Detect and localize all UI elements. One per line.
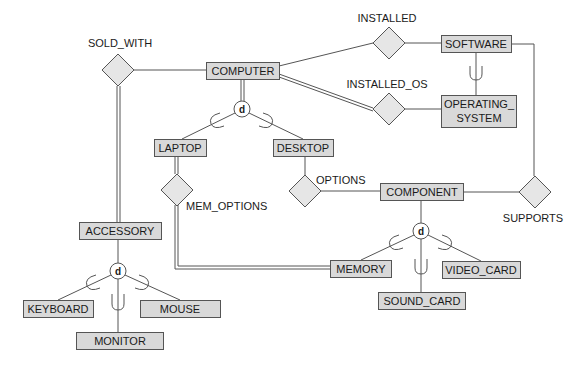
specialization-accessory: d	[110, 263, 126, 279]
entity-laptop[interactable]: LAPTOP	[155, 140, 207, 157]
relationship-label: SOLD_WITH	[88, 37, 152, 49]
entity-label: DESKTOP	[277, 142, 329, 154]
entity-software[interactable]: SOFTWARE	[442, 36, 512, 53]
relationship-label: OPTIONS	[316, 174, 366, 186]
relationship-sold-with[interactable]: SOLD_WITH	[88, 37, 152, 86]
entity-label: LAPTOP	[158, 142, 201, 154]
line-d-desktop	[249, 113, 303, 139]
entity-memory[interactable]: MEMORY	[331, 261, 392, 278]
entity-accessory[interactable]: ACCESSORY	[80, 223, 162, 240]
subset-symbol-laptop	[210, 113, 224, 128]
entity-sound-card[interactable]: SOUND_CARD	[379, 293, 466, 310]
entity-desktop[interactable]: DESKTOP	[274, 140, 334, 157]
line-d-memory	[361, 235, 414, 260]
entity-label-line1: OPERATING_	[444, 98, 515, 110]
specialization-component: d	[413, 223, 429, 239]
diamond-shape	[373, 27, 405, 59]
relationship-label: MEM_OPTIONS	[186, 200, 267, 212]
diamond-shape	[373, 93, 405, 125]
line-memoptions-memory-b	[178, 205, 330, 266]
relationship-installed-os[interactable]: INSTALLED_OS	[346, 78, 427, 125]
entity-label: COMPONENT	[386, 186, 458, 198]
line-memoptions-memory-a	[175, 205, 330, 269]
entity-label: MONITOR	[94, 335, 146, 347]
subset-symbol-desktop	[259, 113, 273, 128]
entity-label: SOUND_CARD	[383, 295, 460, 307]
disjoint-label: d	[239, 104, 245, 115]
relationship-label: SUPPORTS	[503, 212, 563, 224]
entity-label: VIDEO_CARD	[445, 264, 517, 276]
line-d-laptop	[182, 113, 235, 139]
entity-computer[interactable]: COMPUTER	[207, 63, 280, 80]
relationship-label: INSTALLED	[357, 12, 416, 24]
diamond-shape	[102, 54, 134, 86]
entity-label: KEYBOARD	[27, 303, 88, 315]
disjoint-label: d	[115, 266, 121, 277]
entity-monitor[interactable]: MONITOR	[77, 333, 164, 350]
entity-label: COMPUTER	[212, 65, 275, 77]
entity-mouse[interactable]: MOUSE	[141, 301, 221, 318]
entity-label: ACCESSORY	[86, 225, 156, 237]
relationship-mem-options[interactable]: MEM_OPTIONS	[161, 174, 267, 212]
diamond-shape	[519, 176, 551, 208]
entity-label: MEMORY	[336, 263, 386, 275]
er-diagram-canvas: SOLD_WITH INSTALLED INSTALLED_OS MEM_OPT…	[0, 0, 575, 371]
entity-keyboard[interactable]: KEYBOARD	[24, 301, 94, 318]
line-d-videocard	[428, 235, 481, 261]
specialization-computer: d	[234, 101, 250, 117]
relationship-supports[interactable]: SUPPORTS	[503, 176, 563, 224]
disjoint-label: d	[418, 226, 424, 237]
entity-operating-system[interactable]: OPERATING_ SYSTEM	[442, 96, 517, 128]
relationship-installed[interactable]: INSTALLED	[357, 12, 416, 59]
entity-video-card[interactable]: VIDEO_CARD	[443, 262, 521, 279]
entity-label: SOFTWARE	[445, 38, 507, 50]
subset-symbol-videocard	[438, 235, 452, 250]
line-d-mouse	[125, 275, 180, 300]
line-computer-installed	[279, 43, 373, 66]
subset-symbol-keyboard	[86, 275, 100, 290]
entity-label-line2: SYSTEM	[456, 112, 501, 124]
entity-label: MOUSE	[160, 303, 200, 315]
subset-symbol-memory	[389, 235, 403, 250]
line-d-keyboard	[58, 275, 111, 300]
relationship-label: INSTALLED_OS	[346, 78, 427, 90]
entity-component[interactable]: COMPONENT	[381, 184, 464, 201]
